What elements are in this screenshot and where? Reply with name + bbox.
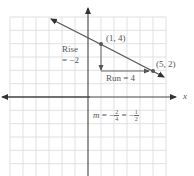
point-label-1-4: (1, 4)	[106, 34, 126, 43]
axes	[2, 8, 176, 176]
point-5-2	[151, 69, 155, 73]
point-label-5-2: (5, 2)	[156, 60, 176, 69]
equals-neg-1: = −	[102, 110, 114, 120]
equals-neg-2: = −	[121, 110, 133, 120]
slope-formula: m = −24 = −12	[93, 109, 139, 122]
fraction-1-over-2: 12	[134, 109, 139, 122]
coordinate-plane	[0, 0, 194, 176]
point-1-4	[99, 42, 103, 46]
slope-variable: m	[93, 110, 100, 120]
rise-label: Rise	[62, 45, 78, 54]
fraction-2-over-4: 24	[114, 109, 119, 122]
run-label: Run = 4	[106, 74, 135, 83]
rise-value-label: = −2	[62, 56, 79, 65]
x-axis-label: x	[183, 92, 187, 101]
